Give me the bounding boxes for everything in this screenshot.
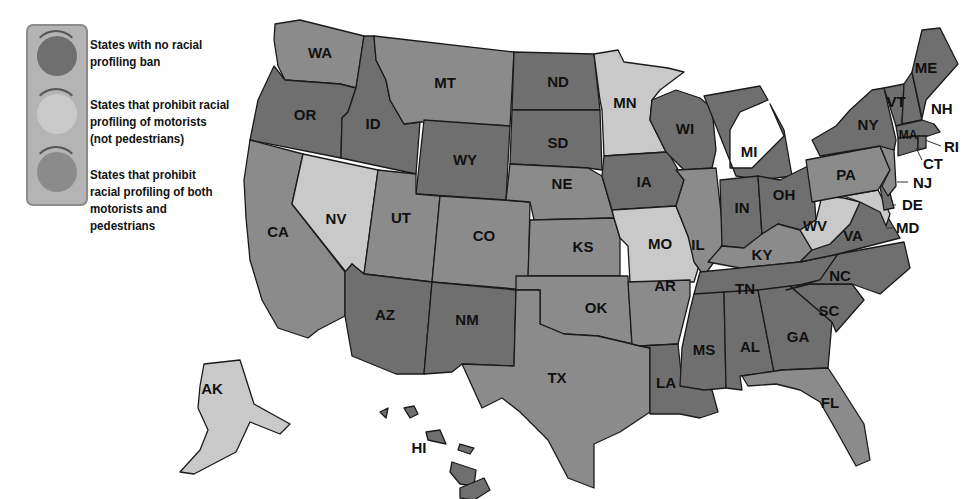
- label-WA: WA: [308, 44, 332, 61]
- label-WI: WI: [676, 120, 694, 137]
- label-ID: ID: [366, 115, 381, 132]
- state-FL: [742, 368, 870, 466]
- us-map: WA OR CA NV ID MT WY UT CO AZ NM ND SD N…: [0, 0, 976, 499]
- label-NE: NE: [552, 175, 573, 192]
- label-CA: CA: [267, 223, 289, 240]
- label-AK: AK: [201, 380, 223, 397]
- label-UT: UT: [391, 209, 411, 226]
- label-IA: IA: [637, 173, 652, 190]
- label-OK: OK: [585, 299, 608, 316]
- label-ME: ME: [915, 59, 938, 76]
- label-RI: RI: [944, 138, 959, 155]
- state-NM: [424, 282, 516, 374]
- label-AR: AR: [654, 277, 676, 294]
- label-MO: MO: [648, 235, 672, 252]
- label-KS: KS: [573, 238, 594, 255]
- label-VT: VT: [886, 93, 905, 110]
- label-NC: NC: [829, 267, 851, 284]
- label-CO: CO: [473, 227, 496, 244]
- label-NJ: NJ: [913, 174, 932, 191]
- label-LA: LA: [656, 374, 676, 391]
- label-KY: KY: [752, 246, 773, 263]
- label-SD: SD: [548, 134, 569, 151]
- label-NY: NY: [858, 116, 879, 133]
- label-TN: TN: [735, 280, 755, 297]
- label-MI: MI: [741, 143, 758, 160]
- label-NM: NM: [455, 311, 478, 328]
- label-IL: IL: [691, 236, 704, 253]
- label-MS: MS: [693, 341, 716, 358]
- label-IN: IN: [735, 199, 750, 216]
- label-GA: GA: [787, 328, 810, 345]
- label-AL: AL: [740, 338, 760, 355]
- label-MT: MT: [434, 74, 456, 91]
- label-VA: VA: [843, 227, 863, 244]
- label-PA: PA: [836, 166, 856, 183]
- label-OR: OR: [294, 106, 317, 123]
- label-CT: CT: [923, 155, 943, 172]
- state-HI-part: [426, 430, 446, 444]
- state-MI: [704, 86, 792, 180]
- label-ND: ND: [547, 73, 569, 90]
- label-HI: HI: [412, 439, 427, 456]
- label-NH: NH: [931, 100, 953, 117]
- label-OH: OH: [773, 186, 796, 203]
- label-SC: SC: [819, 302, 840, 319]
- label-WV: WV: [803, 217, 827, 234]
- label-DE: DE: [902, 196, 923, 213]
- state-HI-part: [458, 444, 474, 454]
- state-HI-part: [404, 406, 418, 418]
- label-NV: NV: [326, 210, 347, 227]
- state-HI: [380, 408, 388, 418]
- leader-RI: [925, 140, 941, 146]
- state-AK: [180, 360, 290, 474]
- state-RI: [918, 136, 926, 150]
- label-MD: MD: [896, 219, 919, 236]
- label-FL: FL: [821, 394, 839, 411]
- label-WY: WY: [453, 151, 477, 168]
- label-AZ: AZ: [375, 306, 395, 323]
- state-NY: [812, 88, 896, 156]
- label-MA: MA: [899, 128, 918, 142]
- label-MN: MN: [613, 94, 636, 111]
- label-TX: TX: [547, 369, 566, 386]
